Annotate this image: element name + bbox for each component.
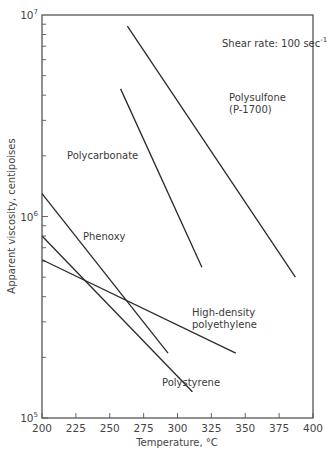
x-tick-label: 250 (100, 422, 120, 434)
plot-frame (42, 15, 313, 418)
x-tick-label: 350 (235, 422, 255, 434)
x-axis-title: Temperature, °C (135, 437, 218, 448)
x-tick-label: 375 (269, 422, 289, 434)
x-tick-label: 200 (32, 422, 52, 434)
series-line (42, 194, 168, 354)
x-tick-label: 225 (66, 422, 86, 434)
series-labels: Polysulfone(P-1700)PolycarbonatePhenoxyP… (67, 92, 286, 388)
viscosity-temperature-chart: Polysulfone(P-1700)PolycarbonatePhenoxyP… (0, 0, 331, 453)
x-tick-label: 325 (201, 422, 221, 434)
series-label: Polycarbonate (67, 150, 138, 161)
x-tick-label: 400 (303, 422, 323, 434)
series-label: Phenoxy (83, 231, 126, 242)
series-line (121, 89, 202, 267)
series-label: Polystyrene (162, 377, 220, 388)
series-label: High-density (192, 307, 255, 318)
shear-rate-annotation: Shear rate: 100 sec-1 (222, 36, 327, 49)
axis-ticks (42, 24, 313, 418)
series-label: polyethylene (192, 319, 257, 330)
y-tick-label: 107 (20, 8, 38, 21)
series-label: Polysulfone (229, 92, 286, 103)
y-tick-labels: 105106107 (20, 8, 38, 424)
x-tick-label: 275 (134, 422, 154, 434)
y-tick-label: 106 (20, 210, 38, 223)
x-tick-label: 300 (167, 422, 187, 434)
series-line (42, 236, 192, 392)
series-lines (42, 26, 295, 392)
series-label: (P-1700) (229, 104, 272, 115)
x-tick-labels: 200225250275300325350375400 (32, 422, 323, 434)
series-line (127, 26, 295, 277)
y-axis-title: Apparent viscosity, centipoises (6, 138, 17, 293)
